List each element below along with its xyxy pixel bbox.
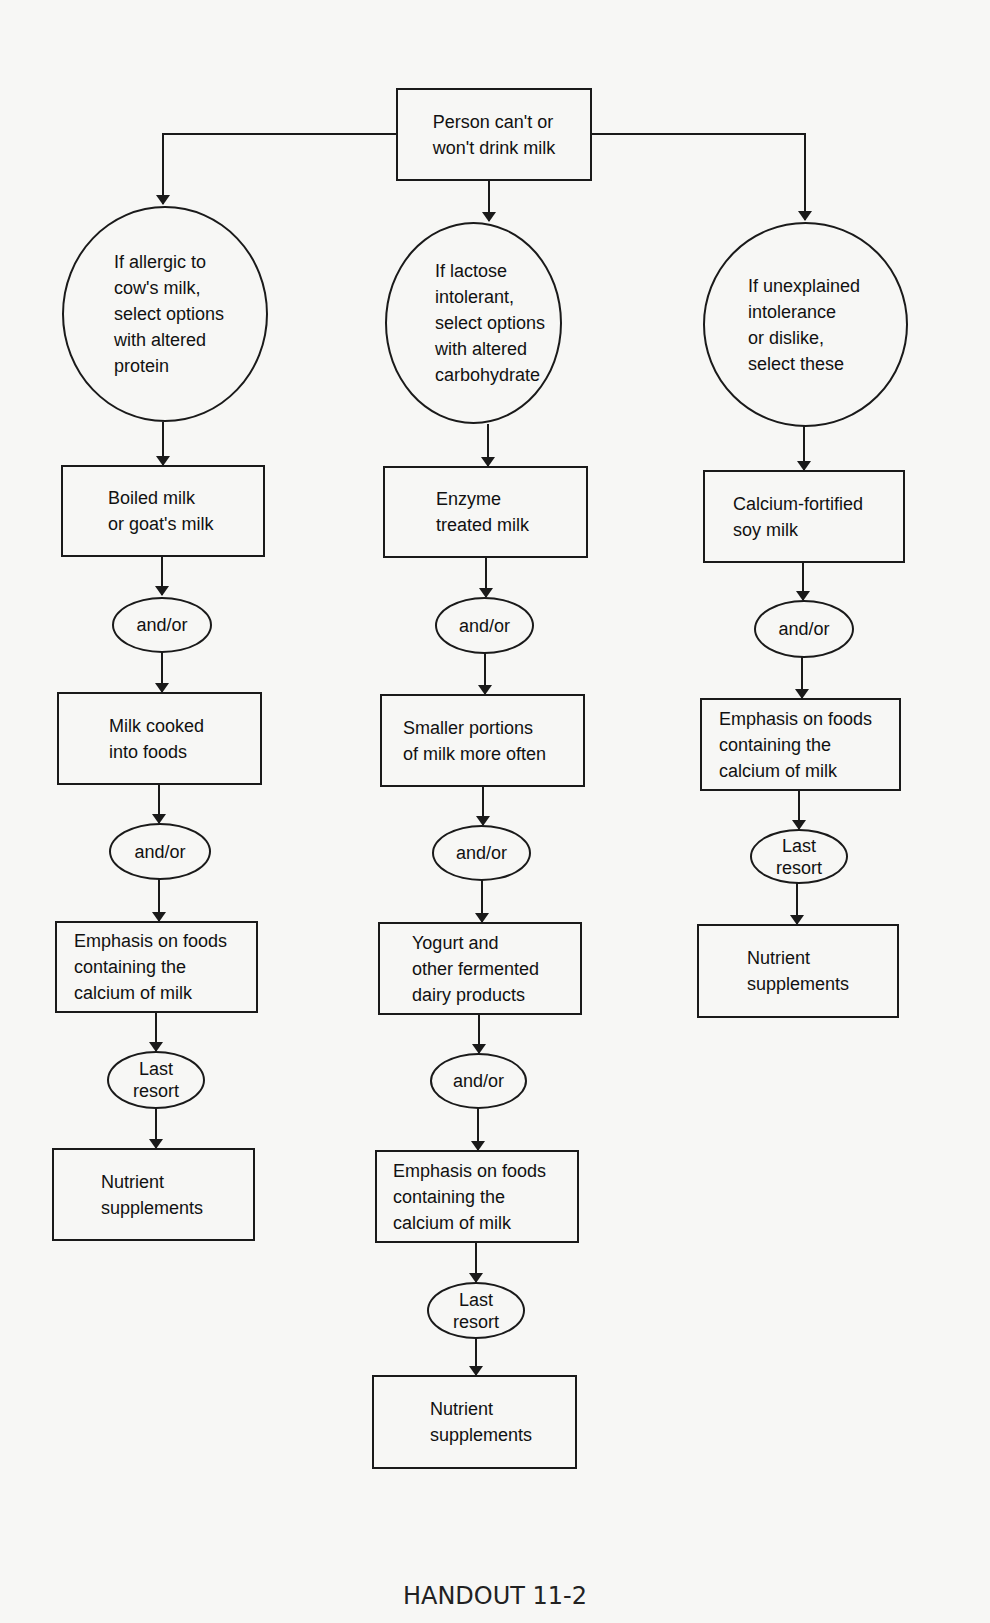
option-emphasis-calcium: Emphasis on foods containing the calcium… — [700, 698, 901, 791]
connector-label: Last — [459, 1289, 493, 1311]
option-line: Emphasis on foods — [719, 706, 879, 732]
connector-label: resort — [776, 857, 822, 879]
connector-label: and/or — [134, 841, 185, 863]
condition-lactose: If lactose intolerant, select options wi… — [385, 222, 562, 424]
option-line: containing the — [393, 1184, 557, 1210]
connector-label: and/or — [778, 618, 829, 640]
option-line: calcium of milk — [393, 1210, 557, 1236]
option-nutrient-supplements: Nutrient supplements — [52, 1148, 255, 1241]
option-enzyme-milk: Enzyme treated milk — [383, 466, 588, 558]
option-yogurt: Yogurt and other fermented dairy product… — [378, 922, 582, 1015]
option-line: Smaller portions — [403, 715, 563, 741]
condition-line: protein — [114, 353, 266, 379]
root-line-1: Person can't or — [433, 109, 555, 135]
connector-label: resort — [133, 1080, 179, 1102]
option-boiled-milk: Boiled milk or goat's milk — [61, 465, 265, 557]
condition-line: If allergic to — [114, 249, 266, 275]
last-resort-connector: Last resort — [107, 1051, 205, 1109]
andor-connector: and/or — [754, 600, 854, 658]
andor-connector: and/or — [432, 825, 531, 881]
condition-line: select these — [748, 351, 906, 377]
condition-line: intolerance — [748, 299, 906, 325]
option-line: dairy products — [412, 982, 560, 1008]
option-emphasis-calcium: Emphasis on foods containing the calcium… — [375, 1150, 579, 1243]
option-line: Emphasis on foods — [74, 928, 236, 954]
connector-label: and/or — [459, 615, 510, 637]
option-line: containing the — [719, 732, 879, 758]
option-emphasis-calcium: Emphasis on foods containing the calcium… — [55, 921, 258, 1013]
option-line: other fermented — [412, 956, 560, 982]
option-line: calcium of milk — [719, 758, 879, 784]
option-milk-cooked: Milk cooked into foods — [57, 692, 262, 785]
connector-label: resort — [453, 1311, 499, 1333]
option-line: Milk cooked — [109, 713, 240, 739]
option-line: treated milk — [436, 512, 566, 538]
option-line: Nutrient — [747, 945, 877, 971]
condition-line: or dislike, — [748, 325, 906, 351]
andor-connector: and/or — [435, 597, 534, 654]
root-node: Person can't or won't drink milk — [396, 88, 592, 181]
option-line: Calcium-fortified — [733, 491, 883, 517]
connector-label: Last — [139, 1058, 173, 1080]
andor-connector: and/or — [430, 1053, 527, 1109]
option-line: Boiled milk — [108, 485, 243, 511]
option-smaller-portions: Smaller portions of milk more often — [380, 694, 585, 787]
condition-line: with altered — [114, 327, 266, 353]
option-line: supplements — [101, 1195, 233, 1221]
condition-line: intolerant, — [435, 284, 560, 310]
connector-label: and/or — [453, 1070, 504, 1092]
andor-connector: and/or — [109, 823, 211, 880]
connector-label: and/or — [136, 614, 187, 636]
option-line: Yogurt and — [412, 930, 560, 956]
option-line: calcium of milk — [74, 980, 236, 1006]
condition-line: with altered — [435, 336, 560, 362]
option-line: soy milk — [733, 517, 883, 543]
condition-allergic: If allergic to cow's milk, select option… — [62, 206, 268, 422]
andor-connector: and/or — [112, 597, 212, 653]
connector-label: and/or — [456, 842, 507, 864]
option-line: Emphasis on foods — [393, 1158, 557, 1184]
last-resort-connector: Last resort — [750, 829, 848, 884]
option-nutrient-supplements: Nutrient supplements — [697, 924, 899, 1018]
option-line: into foods — [109, 739, 240, 765]
option-line: Nutrient — [101, 1169, 233, 1195]
handout-label: HANDOUT 11-2 — [0, 1582, 990, 1610]
last-resort-connector: Last resort — [427, 1282, 525, 1339]
root-line-2: won't drink milk — [433, 135, 555, 161]
option-line: supplements — [430, 1422, 555, 1448]
condition-line: carbohydrate — [435, 362, 560, 388]
connector-label: Last — [782, 835, 816, 857]
option-line: Nutrient — [430, 1396, 555, 1422]
condition-line: select options — [435, 310, 560, 336]
option-line: containing the — [74, 954, 236, 980]
condition-line: select options — [114, 301, 266, 327]
option-line: or goat's milk — [108, 511, 243, 537]
condition-unexplained: If unexplained intolerance or dislike, s… — [703, 222, 908, 427]
condition-line: If unexplained — [748, 273, 906, 299]
option-soy-milk: Calcium-fortified soy milk — [703, 470, 905, 563]
option-line: of milk more often — [403, 741, 563, 767]
condition-line: If lactose — [435, 258, 560, 284]
option-line: supplements — [747, 971, 877, 997]
option-line: Enzyme — [436, 486, 566, 512]
option-nutrient-supplements: Nutrient supplements — [372, 1375, 577, 1469]
condition-line: cow's milk, — [114, 275, 266, 301]
